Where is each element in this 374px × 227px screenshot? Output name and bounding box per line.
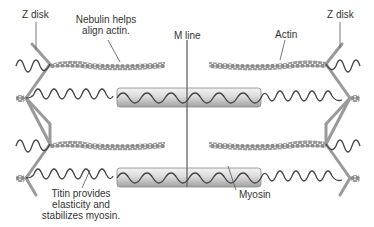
nebulin-label: Nebulin helps align actin. [66, 14, 146, 36]
z-disk-left-label: Z disk [22, 9, 49, 20]
sarcomere-diagram: Z disk Z disk Nebulin helps align actin.… [0, 0, 374, 227]
titin-label-line3: stabilizes myosin. [26, 210, 136, 221]
actin-top-left [50, 61, 165, 71]
z-disk-right-label: Z disk [327, 9, 354, 20]
titin-label-line2: elasticity and [26, 199, 136, 210]
myosin-label: Myosin [239, 189, 271, 200]
actin-label: Actin [275, 29, 297, 40]
nebulin-label-line2: align actin. [66, 25, 146, 36]
titin-label: Titin provides elasticity and stabilizes… [26, 188, 136, 221]
actin-bottom-right [209, 140, 326, 150]
m-line-label: M line [174, 30, 201, 41]
actin-bottom-left [50, 141, 165, 151]
titin-label-line1: Titin provides [26, 188, 136, 199]
actin-top-right [209, 60, 326, 70]
nebulin-label-line1: Nebulin helps [66, 14, 146, 25]
z-disk-left [26, 44, 50, 195]
